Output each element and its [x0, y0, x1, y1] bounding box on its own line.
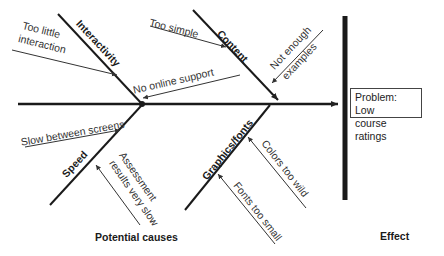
- effect-box-line1: Problem: Low: [355, 91, 417, 117]
- effect-box: Problem: Low course ratings: [350, 88, 422, 118]
- potential-causes-label: Potential causes: [95, 232, 178, 243]
- effect-box-line2: course ratings: [355, 117, 417, 143]
- effect-label: Effect: [380, 231, 409, 242]
